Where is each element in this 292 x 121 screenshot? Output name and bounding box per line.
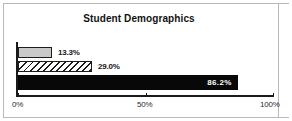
bar-value-label-1: 13.3% xyxy=(58,48,80,57)
x-axis-tick-50 xyxy=(146,93,147,97)
x-axis-line xyxy=(16,95,273,97)
x-axis-label-50: 50% xyxy=(137,100,152,109)
x-axis-label-0: 0% xyxy=(12,100,23,109)
bar-series-1 xyxy=(18,47,52,58)
plot-area: 13.3% 29.0% 86.2% 0% 50% 100% xyxy=(0,0,292,121)
x-axis-tick-100 xyxy=(273,93,274,97)
bar-series-3 xyxy=(18,75,238,90)
bar-value-label-3: 86.2% xyxy=(207,78,232,87)
x-axis-label-100: 100% xyxy=(260,100,280,109)
bar-value-label-2: 29.0% xyxy=(98,62,120,71)
bar-series-2 xyxy=(18,61,92,72)
chart-container: Student Demographics 13.3% 29.0% 86.2% 0… xyxy=(0,0,292,121)
x-axis-tick-0 xyxy=(18,93,19,97)
